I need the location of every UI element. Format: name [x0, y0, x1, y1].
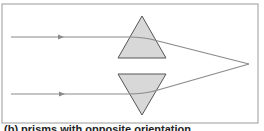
- figure-border: [2, 4, 258, 123]
- prism-diagram: [0, 0, 264, 124]
- figure-caption: (b) prisms with opposite orientation: [4, 124, 191, 131]
